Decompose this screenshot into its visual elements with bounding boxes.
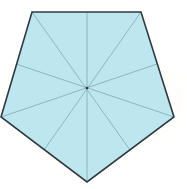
center-point	[86, 87, 89, 90]
pentagon	[1, 12, 174, 182]
pentagon-diagram	[0, 0, 187, 189]
